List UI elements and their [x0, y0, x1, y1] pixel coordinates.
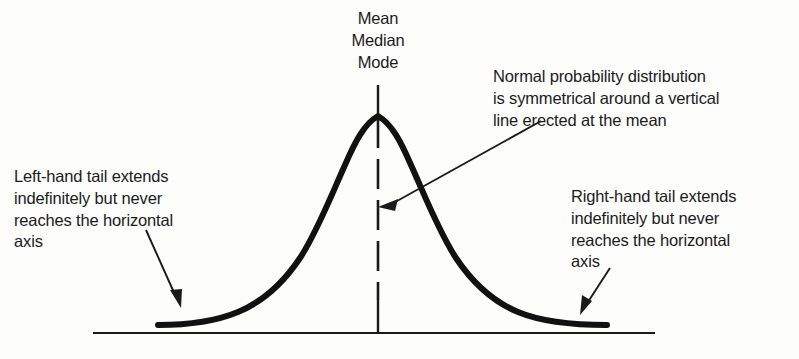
symmetry-annotation: Normal probability distribution is symme…: [493, 66, 793, 131]
mode-label: Mode: [318, 52, 438, 74]
median-label: Median: [318, 30, 438, 52]
symmetry-leader-arrow: [378, 121, 541, 211]
right-tail-leader-arrow: [580, 268, 610, 315]
mean-label: Mean: [318, 8, 438, 30]
left-tail-annotation: Left-hand tail extends indefinitely but …: [14, 166, 239, 253]
center-tendency-label: Mean Median Mode: [318, 8, 438, 74]
normal-distribution-figure: Mean Median Mode Normal probability dist…: [0, 0, 799, 359]
right-tail-annotation: Right-hand tail extends indefinitely but…: [571, 186, 796, 273]
